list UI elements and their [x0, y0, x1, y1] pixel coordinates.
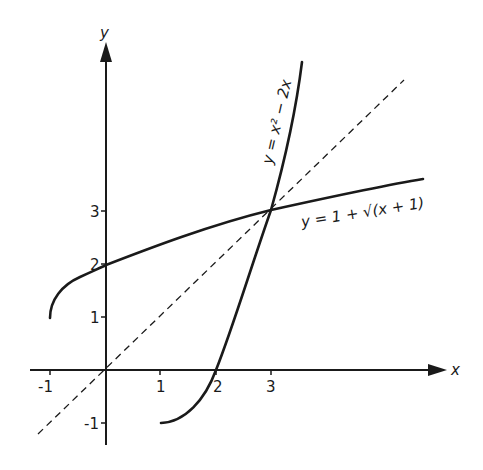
- x-tick-label: 3: [266, 378, 276, 396]
- x-tick-label: 1: [156, 378, 166, 396]
- y-tick-label: -1: [84, 415, 99, 433]
- x-tick-label: -1: [38, 378, 53, 396]
- y-tick-label: 1: [90, 309, 100, 327]
- parabola-curve-label: y = x² − 2x: [258, 78, 295, 167]
- x-axis-arrow-icon: [428, 364, 447, 376]
- function-graph: -1 1 2 3 3 2 1 -1 x y y = 1 + √(x + 1) y…: [0, 0, 483, 470]
- x-tick-label: 2: [213, 378, 223, 396]
- y-axis-arrow-icon: [100, 42, 112, 62]
- y-axis-label: y: [99, 24, 110, 42]
- y-tick-label: 3: [90, 203, 100, 221]
- x-axis-label: x: [450, 361, 460, 379]
